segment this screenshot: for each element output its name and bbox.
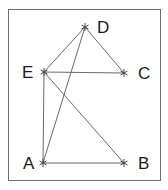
graph-canvas: ABCDE xyxy=(0,0,168,190)
node-label: E xyxy=(22,63,33,82)
node-label: D xyxy=(97,18,109,37)
node-label: C xyxy=(138,64,150,83)
node-label: A xyxy=(23,154,35,173)
graph-diagram: ABCDE xyxy=(0,0,168,190)
node-label: B xyxy=(138,154,149,173)
